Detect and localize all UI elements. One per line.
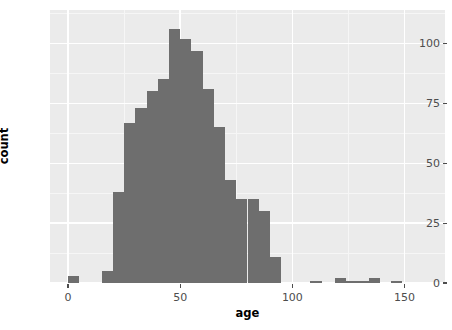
histogram-bar	[236, 199, 247, 283]
histogram-bar	[169, 29, 180, 283]
histogram-bar	[135, 108, 146, 283]
y-axis-tick-mark	[443, 103, 447, 104]
histogram-bar	[270, 257, 281, 283]
gridline-major-vertical	[67, 10, 68, 283]
y-axis-tick-label: 75	[426, 98, 440, 109]
y-axis-tick-mark	[443, 43, 447, 44]
y-axis-tick-mark	[443, 163, 447, 164]
histogram-bar	[102, 271, 113, 283]
histogram-bar	[203, 89, 214, 283]
gridline-minor-horizontal	[50, 73, 445, 74]
x-axis-tick-mark	[292, 284, 293, 288]
histogram-bar	[225, 180, 236, 283]
x-axis-title: age	[50, 306, 445, 320]
x-axis-tick-label: 50	[173, 292, 187, 303]
y-axis-tick-label: 25	[426, 218, 440, 229]
histogram-bar	[259, 211, 270, 283]
gridline-minor-horizontal	[50, 193, 445, 194]
histogram-bar	[391, 281, 402, 283]
y-axis-title: count	[0, 128, 11, 165]
gridline-major-horizontal	[50, 43, 445, 44]
histogram-bar	[191, 51, 202, 283]
histogram-bar	[248, 199, 259, 283]
gridline-major-horizontal	[50, 163, 445, 164]
x-axis-tick-mark	[180, 284, 181, 288]
gridline-major-horizontal	[50, 103, 445, 104]
histogram-bar	[310, 281, 321, 283]
histogram-chart: 0255075100050100150 age count	[0, 0, 452, 330]
histogram-bar	[369, 278, 380, 283]
x-axis-tick-mark	[67, 284, 68, 288]
gridline-major-vertical	[404, 10, 405, 283]
gridline-minor-horizontal	[50, 13, 445, 14]
histogram-bar	[113, 192, 124, 283]
plot-panel	[50, 10, 445, 283]
histogram-bar	[147, 91, 158, 283]
x-axis-tick-label: 0	[64, 292, 71, 303]
histogram-bar	[68, 276, 79, 283]
histogram-bar	[158, 79, 169, 283]
histogram-bar	[335, 278, 346, 283]
y-axis-tick-label: 50	[426, 158, 440, 169]
histogram-bar	[180, 39, 191, 283]
histogram-bar	[124, 123, 135, 283]
histogram-bar	[346, 281, 357, 283]
histogram-bar	[357, 281, 368, 283]
gridline-minor-horizontal	[50, 133, 445, 134]
y-axis-tick-mark	[443, 282, 447, 283]
x-axis-tick-label: 150	[394, 292, 415, 303]
histogram-bar	[214, 127, 225, 283]
y-axis-tick-label: 0	[433, 278, 440, 289]
gridline-minor-vertical	[348, 10, 349, 283]
gridline-major-vertical	[292, 10, 293, 283]
x-axis-tick-mark	[404, 284, 405, 288]
x-axis-tick-label: 100	[282, 292, 303, 303]
y-axis-tick-mark	[443, 223, 447, 224]
y-axis-tick-label: 100	[419, 38, 440, 49]
